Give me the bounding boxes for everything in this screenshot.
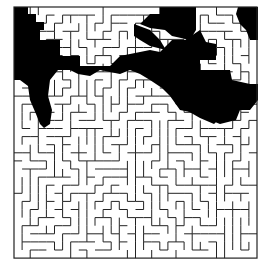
maze-filled-regions xyxy=(14,7,258,128)
maze-board xyxy=(0,0,268,273)
